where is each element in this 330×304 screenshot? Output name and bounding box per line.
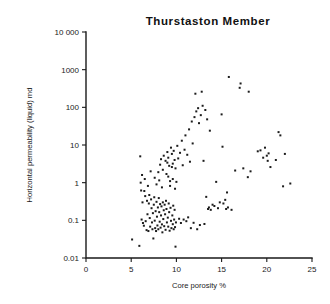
data-point xyxy=(169,230,171,232)
data-point xyxy=(160,158,162,160)
y-axis-title: Horizontal permeability (liquid) md xyxy=(25,88,34,203)
data-point xyxy=(175,221,177,223)
data-point xyxy=(204,109,206,111)
data-point xyxy=(184,149,186,151)
data-point xyxy=(167,176,169,178)
data-point xyxy=(159,164,161,166)
x-tick-label: 0 xyxy=(84,265,89,274)
data-point xyxy=(240,82,242,84)
data-point xyxy=(250,170,252,172)
data-point xyxy=(222,146,224,148)
data-point xyxy=(161,186,163,188)
data-point xyxy=(193,116,195,118)
data-point xyxy=(219,201,221,203)
data-point xyxy=(156,216,158,218)
x-tick-label: 10 xyxy=(172,265,181,274)
data-point xyxy=(161,231,163,233)
x-tick-label: 20 xyxy=(262,265,271,274)
data-point xyxy=(167,226,169,228)
data-point xyxy=(159,221,161,223)
x-tick-label: 25 xyxy=(308,265,317,274)
data-point xyxy=(264,147,266,149)
data-point xyxy=(155,210,157,212)
data-point xyxy=(201,91,203,93)
data-point xyxy=(140,182,142,184)
data-point xyxy=(282,185,284,187)
data-point xyxy=(184,134,186,136)
data-point xyxy=(197,107,199,109)
data-point xyxy=(144,178,146,180)
data-point xyxy=(203,160,205,162)
data-point xyxy=(205,196,207,198)
data-point xyxy=(158,179,160,181)
data-point xyxy=(148,202,150,204)
data-point xyxy=(147,185,149,187)
data-point xyxy=(158,211,160,213)
data-point xyxy=(165,160,167,162)
data-point xyxy=(146,213,148,215)
data-point xyxy=(178,218,180,220)
data-point xyxy=(284,153,286,155)
data-point xyxy=(164,204,166,206)
data-point xyxy=(152,237,154,239)
data-point xyxy=(210,209,212,211)
y-tick-label: 10 xyxy=(70,141,79,150)
data-point xyxy=(171,214,173,216)
data-point xyxy=(148,194,150,196)
data-point xyxy=(175,167,177,169)
data-point xyxy=(163,209,165,211)
data-point xyxy=(190,227,192,229)
data-point xyxy=(143,225,145,227)
data-point xyxy=(170,207,172,209)
data-point xyxy=(172,178,174,180)
data-point xyxy=(154,177,156,179)
data-point xyxy=(142,201,144,203)
data-point xyxy=(247,176,249,178)
data-point xyxy=(142,222,144,224)
data-point xyxy=(157,206,159,208)
data-point xyxy=(257,150,259,152)
data-point xyxy=(154,220,156,222)
data-point xyxy=(139,155,141,157)
data-point xyxy=(170,227,172,229)
data-point xyxy=(231,209,233,211)
data-point xyxy=(209,130,211,132)
data-point xyxy=(227,206,229,208)
data-point xyxy=(168,165,170,167)
data-point xyxy=(217,207,219,209)
data-point xyxy=(166,151,168,153)
data-point xyxy=(221,113,223,115)
data-point xyxy=(175,181,177,183)
data-point xyxy=(180,222,182,224)
x-axis-title: Core porosity % xyxy=(172,281,226,290)
data-point xyxy=(152,212,154,214)
data-point xyxy=(225,208,227,210)
data-point xyxy=(168,202,170,204)
data-point xyxy=(166,221,168,223)
data-point xyxy=(165,208,167,210)
data-point xyxy=(167,157,169,159)
data-point xyxy=(169,185,171,187)
data-point xyxy=(189,161,191,163)
data-point xyxy=(141,174,143,176)
data-point xyxy=(147,230,149,232)
data-point xyxy=(167,217,169,219)
chart-figure: Thurstaston Member 05101520250.010.11101… xyxy=(0,0,330,304)
data-point xyxy=(171,166,173,168)
data-point xyxy=(191,121,193,123)
data-point xyxy=(186,154,188,156)
data-point xyxy=(193,222,195,224)
data-point xyxy=(212,204,214,206)
data-point xyxy=(151,221,153,223)
data-point xyxy=(176,145,178,147)
data-point xyxy=(138,245,140,247)
data-point xyxy=(151,207,153,209)
data-point xyxy=(154,227,156,229)
data-point xyxy=(198,122,200,124)
data-point xyxy=(160,227,162,229)
data-point xyxy=(269,166,271,168)
data-point xyxy=(143,190,145,192)
data-point xyxy=(149,226,151,228)
data-point xyxy=(200,114,202,116)
data-point xyxy=(208,206,210,208)
